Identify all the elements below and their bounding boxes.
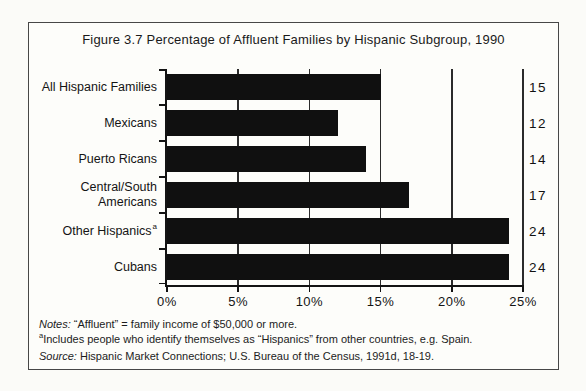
x-axis-labels: 0%5%10%15%20%25% bbox=[167, 294, 523, 310]
x-tick-label: 25% bbox=[509, 294, 537, 309]
y-axis-tick bbox=[159, 248, 165, 250]
figure-title: Figure 3.7 Percentage of Affluent Famili… bbox=[29, 32, 558, 47]
x-tick-label: 10% bbox=[296, 294, 324, 309]
source-label: Source: bbox=[39, 350, 77, 362]
gridline-20 bbox=[451, 69, 453, 285]
bar-value-label: 24 bbox=[529, 213, 547, 249]
x-tick-label: 5% bbox=[228, 294, 248, 309]
x-axis-tick bbox=[451, 285, 453, 292]
y-axis-tick bbox=[159, 283, 165, 285]
x-axis-tick bbox=[522, 285, 524, 292]
x-axis-tick bbox=[237, 285, 239, 292]
x-axis-tick bbox=[166, 285, 168, 292]
bar-value-label: 24 bbox=[529, 249, 547, 285]
notes-text: “Affluent” = family income of $50,000 or… bbox=[71, 318, 297, 330]
bar-value-label: 14 bbox=[529, 141, 547, 177]
y-axis-tick bbox=[159, 140, 165, 142]
y-axis-tick bbox=[159, 212, 165, 214]
figure-notes: Notes: “Affluent” = family income of $50… bbox=[39, 317, 544, 364]
x-axis-tick bbox=[309, 285, 311, 292]
source-line: Source: Hispanic Market Connections; U.S… bbox=[39, 349, 544, 364]
bar bbox=[167, 74, 381, 100]
plot-area: 151214172424 bbox=[165, 69, 523, 287]
y-axis-tick bbox=[159, 176, 165, 178]
category-label: Puerto Ricans bbox=[31, 141, 157, 177]
notes-label: Notes: bbox=[39, 318, 71, 330]
gridline-5 bbox=[237, 69, 239, 285]
x-axis-tick bbox=[380, 285, 382, 292]
category-labels: All Hispanic FamiliesMexicansPuerto Rica… bbox=[31, 69, 157, 285]
category-label-text: Central/South Americans bbox=[81, 180, 157, 210]
gridline-10 bbox=[309, 69, 311, 285]
figure-box: Figure 3.7 Percentage of Affluent Famili… bbox=[28, 22, 559, 370]
source-text: Hispanic Market Connections; U.S. Bureau… bbox=[77, 350, 434, 362]
y-axis-tick bbox=[159, 104, 165, 106]
bar bbox=[167, 110, 338, 136]
x-tick-label: 0% bbox=[157, 294, 177, 309]
bar-value-label: 12 bbox=[529, 105, 547, 141]
gridline-15 bbox=[380, 69, 382, 285]
footnote-text: Includes people who identify themselves … bbox=[43, 333, 472, 345]
category-label: Mexicans bbox=[31, 105, 157, 141]
category-label: Cubans bbox=[31, 249, 157, 285]
gridline-25 bbox=[522, 69, 524, 285]
bar bbox=[167, 146, 366, 172]
bar bbox=[167, 182, 409, 208]
category-label-text: Other Hispanics bbox=[63, 224, 152, 239]
category-label-text: All Hispanic Families bbox=[42, 80, 157, 95]
bar bbox=[167, 218, 509, 244]
bar-value-label: 17 bbox=[529, 177, 547, 213]
bar-value-label: 15 bbox=[529, 69, 547, 105]
footnote-line: aIncludes people who identify themselves… bbox=[39, 332, 544, 347]
category-label-text: Puerto Ricans bbox=[78, 152, 157, 167]
x-tick-label: 20% bbox=[438, 294, 466, 309]
bar bbox=[167, 254, 509, 280]
category-label: Other Hispanicsa bbox=[31, 213, 157, 249]
x-tick-label: 15% bbox=[367, 294, 395, 309]
category-label-text: Cubans bbox=[114, 260, 157, 275]
category-label: All Hispanic Families bbox=[31, 69, 157, 105]
category-label-text: Mexicans bbox=[104, 116, 157, 131]
note-line: Notes: “Affluent” = family income of $50… bbox=[39, 317, 544, 332]
category-label: Central/South Americans bbox=[31, 177, 157, 213]
y-axis-tick bbox=[159, 69, 165, 71]
